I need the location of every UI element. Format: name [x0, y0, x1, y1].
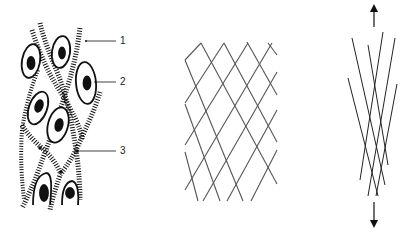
- relaxed-lattice-drawing: [180, 0, 280, 237]
- label-2: 2: [120, 77, 126, 87]
- arrow-up-icon: [370, 4, 378, 27]
- stretched-lattice-drawing: [330, 0, 415, 237]
- panel-stretched-lattice: [330, 0, 415, 237]
- label-1: 1: [120, 36, 126, 46]
- panel-cells-fibers: 1 2 3: [0, 0, 140, 237]
- label-3: 3: [120, 146, 126, 156]
- arrow-down-icon: [370, 202, 378, 228]
- panel-relaxed-lattice: [180, 0, 280, 237]
- cells-fibers-drawing: [0, 0, 140, 237]
